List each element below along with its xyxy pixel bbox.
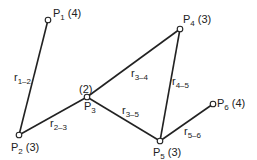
- node-p3-label: P3: [84, 101, 96, 115]
- edge-r5-6-label: r5–6: [184, 126, 201, 140]
- node-p6-label: P6(4): [217, 98, 245, 112]
- edge-r1-2-label: r1–2: [14, 72, 31, 86]
- node-p4-label: P4(3): [183, 14, 211, 28]
- node-p3-weight: (2): [79, 84, 92, 95]
- node-p5-label: P5(3): [153, 147, 181, 160]
- node-p6-marker: [210, 101, 216, 107]
- node-p1-marker: [45, 17, 51, 23]
- node-p5-marker: [157, 138, 163, 144]
- node-p3-marker: [84, 94, 90, 100]
- node-p1-label: P1(4): [53, 8, 81, 22]
- network-diagram: P1(4) P2(3) (2) P3 P4(3) P5(3) P6(4) r1–…: [0, 0, 257, 160]
- node-p2-marker: [16, 132, 22, 138]
- node-p4-marker: [177, 26, 183, 32]
- edge-r3-4-label: r3–4: [131, 68, 148, 82]
- edge-r3-5-label: r3–5: [122, 105, 139, 119]
- node-p2-label: P2(3): [11, 142, 39, 156]
- edges-layer: [0, 0, 257, 160]
- edge-r4-5-label: r4–5: [172, 76, 189, 90]
- edge-r3-4: [87, 29, 180, 97]
- edge-r2-3-label: r2–3: [50, 118, 67, 132]
